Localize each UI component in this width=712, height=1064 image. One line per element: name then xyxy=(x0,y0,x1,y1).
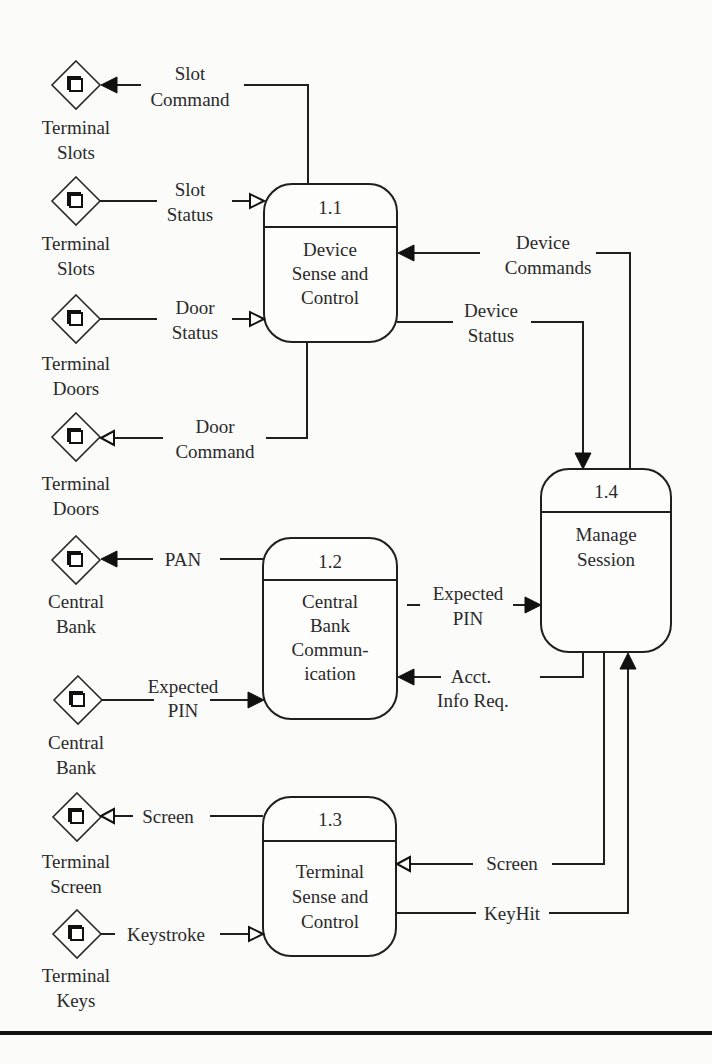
arrowhead-open-icon xyxy=(101,809,114,823)
terminator-label: Central xyxy=(48,591,104,612)
flow-door-command: Door Command xyxy=(101,342,307,462)
flow-label: PIN xyxy=(168,700,199,721)
process-label: Session xyxy=(577,549,636,570)
flow-label: Status xyxy=(167,204,213,225)
terminator-label: Keys xyxy=(56,990,95,1011)
arrowhead-filled-icon xyxy=(248,692,264,708)
arrowhead-filled-icon xyxy=(575,453,591,469)
flow-label: Status xyxy=(172,322,218,343)
terminator-label: Terminal xyxy=(42,851,110,872)
process-label: Device xyxy=(303,239,357,260)
process-id: 1.3 xyxy=(318,809,342,830)
flow-label: Command xyxy=(150,89,230,110)
flow-label: PIN xyxy=(453,608,484,629)
flow-label: Command xyxy=(175,441,255,462)
page-bottom-rule xyxy=(0,1031,712,1035)
terminator-central-bank-1: Central Bank xyxy=(48,536,104,637)
terminator-terminal-doors-1: Terminal Doors xyxy=(42,295,110,399)
flow-label: Expected xyxy=(148,676,219,697)
terminator-label: Doors xyxy=(53,498,99,519)
terminator-label: Bank xyxy=(56,757,97,778)
process-label: Control xyxy=(301,911,359,932)
process-label: ication xyxy=(304,663,356,684)
arrowhead-open-icon xyxy=(101,431,114,445)
terminator-label: Terminal xyxy=(42,117,110,138)
arrowhead-open-icon xyxy=(250,194,264,208)
flow-expected-pin-bank: Expected PIN xyxy=(102,676,264,721)
arrowhead-filled-icon xyxy=(398,245,414,261)
terminator-label: Slots xyxy=(57,142,95,163)
flow-label: Slot xyxy=(175,179,206,200)
terminator-label: Slots xyxy=(57,258,95,279)
flow-label: Device xyxy=(516,232,570,253)
flow-label: KeyHit xyxy=(484,903,541,924)
flow-label: Acct. xyxy=(451,666,492,687)
process-1-2: 1.2 Central Bank Commun- ication xyxy=(263,538,397,719)
terminator-terminal-doors-2: Terminal Doors xyxy=(42,413,110,519)
terminator-terminal-keys: Terminal Keys xyxy=(42,910,110,1011)
terminator-label: Terminal xyxy=(42,473,110,494)
flow-screen-terminal: Screen xyxy=(101,806,263,827)
process-id: 1.2 xyxy=(318,551,342,572)
flow-label: Door xyxy=(195,416,235,437)
flow-label: Device xyxy=(464,300,518,321)
flow-label: Commands xyxy=(505,257,592,278)
flow-acct-info-req: Acct. Info Req. xyxy=(398,652,583,711)
process-label: Commun- xyxy=(291,639,368,660)
process-label: Bank xyxy=(310,615,351,636)
terminator-terminal-slots-2: Terminal Slots xyxy=(42,177,110,279)
arrowhead-filled-icon xyxy=(398,669,414,685)
process-label: Sense and xyxy=(292,263,369,284)
process-id: 1.1 xyxy=(318,197,342,218)
flow-label: Screen xyxy=(142,806,194,827)
flow-label: Slot xyxy=(175,63,206,84)
arrowhead-filled-icon xyxy=(101,77,117,93)
arrowhead-filled-icon xyxy=(525,597,541,613)
flow-label: Screen xyxy=(486,853,538,874)
arrowhead-filled-icon xyxy=(620,653,636,669)
process-label: Control xyxy=(301,287,359,308)
process-1-1: 1.1 Device Sense and Control xyxy=(264,184,397,342)
arrowhead-open-icon xyxy=(397,857,410,871)
process-label: Manage xyxy=(575,524,636,545)
process-1-4: 1.4 Manage Session xyxy=(541,469,671,652)
terminator-label: Screen xyxy=(50,876,102,897)
flow-label: Door xyxy=(175,297,215,318)
flow-label: PAN xyxy=(165,549,202,570)
arrowhead-filled-icon xyxy=(101,551,117,567)
arrowhead-open-icon xyxy=(250,312,264,326)
flow-device-commands: Device Commands xyxy=(398,232,630,469)
flow-pan: PAN xyxy=(101,549,263,570)
flow-keyhit: KeyHit xyxy=(396,653,636,924)
terminator-terminal-screen: Terminal Screen xyxy=(42,793,110,897)
data-flow-diagram: 1.1 Device Sense and Control 1.2 Central… xyxy=(0,0,712,1064)
flow-expected-pin-session: Expected PIN xyxy=(407,583,541,629)
terminator-label: Central xyxy=(48,732,104,753)
terminator-terminal-slots-1: Terminal Slots xyxy=(42,61,110,163)
terminator-central-bank-2: Central Bank xyxy=(48,676,104,778)
terminator-label: Terminal xyxy=(42,353,110,374)
arrowhead-open-icon xyxy=(249,927,263,941)
flow-label: Info Req. xyxy=(437,690,509,711)
process-id: 1.4 xyxy=(594,481,618,502)
flow-screen-session: Screen xyxy=(397,652,604,874)
terminator-label: Terminal xyxy=(42,965,110,986)
process-label: Sense and xyxy=(292,886,369,907)
flow-label: Keystroke xyxy=(127,924,205,945)
terminator-label: Terminal xyxy=(42,233,110,254)
terminator-label: Doors xyxy=(53,378,99,399)
flow-door-status: Door Status xyxy=(100,297,264,343)
process-1-3: 1.3 Terminal Sense and Control xyxy=(263,797,396,956)
process-label: Central xyxy=(302,591,358,612)
terminator-label: Bank xyxy=(56,616,97,637)
flow-label: Expected xyxy=(433,583,504,604)
process-label: Terminal xyxy=(296,861,364,882)
flow-slot-status: Slot Status xyxy=(100,179,264,225)
flow-device-status: Device Status xyxy=(397,300,591,469)
flow-slot-command: Slot Command xyxy=(101,63,308,184)
flow-keystroke: Keystroke xyxy=(101,924,263,945)
flow-label: Status xyxy=(468,325,514,346)
